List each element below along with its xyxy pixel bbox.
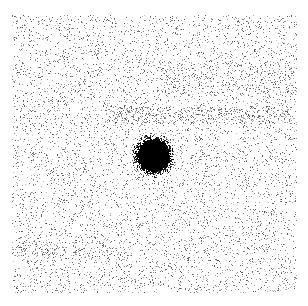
noise-spot-image <box>0 0 308 306</box>
image-frame <box>0 0 308 306</box>
